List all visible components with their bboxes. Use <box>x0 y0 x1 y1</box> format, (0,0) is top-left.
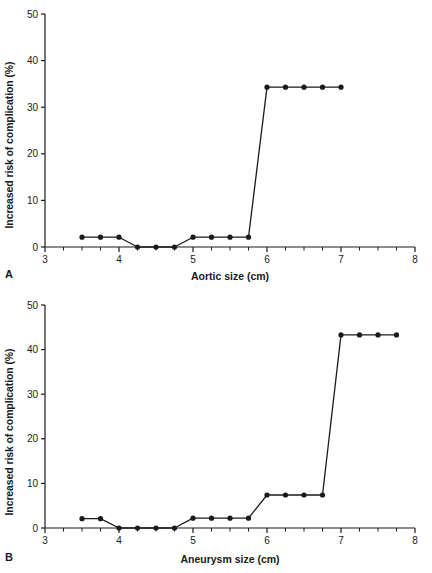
x-axis-tick-label: 4 <box>116 254 122 265</box>
data-point-marker <box>209 516 214 521</box>
data-point-marker <box>190 516 195 521</box>
data-point-marker <box>338 85 343 90</box>
data-point-marker <box>209 235 214 240</box>
figure-container: Increased risk of complication (%) 01020… <box>0 0 432 573</box>
data-point-marker <box>301 85 306 90</box>
y-axis-tick-label: 10 <box>27 195 39 206</box>
data-point-marker <box>264 492 269 497</box>
x-axis-tick-label: 5 <box>190 535 196 546</box>
data-point-marker <box>98 235 103 240</box>
y-axis-tick-label: 0 <box>32 523 38 534</box>
x-axis-tick-label: 7 <box>338 254 344 265</box>
data-point-marker <box>172 525 177 530</box>
y-axis-tick-label: 0 <box>32 242 38 253</box>
data-point-marker <box>394 332 399 337</box>
data-point-marker <box>79 235 84 240</box>
x-axis-tick-label: 3 <box>42 535 48 546</box>
y-axis-tick-label: 50 <box>27 300 39 311</box>
data-point-marker <box>320 85 325 90</box>
data-series-line <box>82 335 397 528</box>
data-point-marker <box>375 332 380 337</box>
chart-panel-b: Increased risk of complication (%) 01020… <box>0 290 432 573</box>
data-point-marker <box>79 516 84 521</box>
data-point-marker <box>153 244 158 249</box>
data-point-marker <box>98 516 103 521</box>
x-axis-label-a: Aortic size (cm) <box>14 270 432 282</box>
data-series-line <box>82 87 341 247</box>
data-point-marker <box>116 525 121 530</box>
data-point-marker <box>320 492 325 497</box>
y-axis-tick-label: 20 <box>27 148 39 159</box>
data-point-marker <box>338 332 343 337</box>
x-axis-tick-label: 5 <box>190 254 196 265</box>
data-point-marker <box>172 244 177 249</box>
y-axis-tick-label: 40 <box>27 344 39 355</box>
y-axis-tick-label: 50 <box>27 9 39 20</box>
x-axis-tick-label: 6 <box>264 254 270 265</box>
data-point-marker <box>246 516 251 521</box>
data-point-marker <box>135 525 140 530</box>
panel-letter-b: B <box>5 551 13 563</box>
data-point-marker <box>301 492 306 497</box>
data-point-marker <box>116 235 121 240</box>
x-axis-tick-label: 6 <box>264 535 270 546</box>
x-axis-label-b: Aneurysm size (cm) <box>14 553 432 565</box>
panel-letter-a: A <box>5 268 13 280</box>
data-point-marker <box>283 85 288 90</box>
x-axis-tick-label: 3 <box>42 254 48 265</box>
data-point-marker <box>227 516 232 521</box>
x-axis-tick-label: 7 <box>338 535 344 546</box>
y-axis-tick-label: 10 <box>27 478 39 489</box>
plot-area-b: 01020304050345678 <box>0 290 432 573</box>
y-axis-tick-label: 30 <box>27 389 39 400</box>
y-axis-tick-label: 40 <box>27 55 39 66</box>
chart-panel-a: Increased risk of complication (%) 01020… <box>0 0 432 290</box>
data-point-marker <box>153 525 158 530</box>
x-axis-tick-label: 8 <box>412 535 418 546</box>
data-point-marker <box>190 235 195 240</box>
data-point-marker <box>246 235 251 240</box>
data-point-marker <box>357 332 362 337</box>
data-point-marker <box>283 492 288 497</box>
data-point-marker <box>227 235 232 240</box>
x-axis-tick-label: 8 <box>412 254 418 265</box>
y-axis-tick-label: 20 <box>27 433 39 444</box>
data-point-marker <box>135 244 140 249</box>
data-point-marker <box>264 85 269 90</box>
x-axis-tick-label: 4 <box>116 535 122 546</box>
y-axis-tick-label: 30 <box>27 102 39 113</box>
plot-area-a: 01020304050345678 <box>0 0 432 290</box>
